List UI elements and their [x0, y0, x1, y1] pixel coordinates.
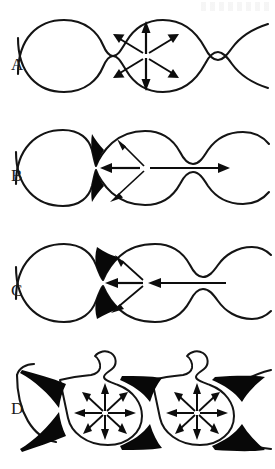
arrow-down-head-b1-d [101, 429, 109, 440]
membrane-lower-contour-c [16, 267, 271, 322]
neck-wedge-upper-c [95, 247, 119, 280]
neck-wedge-left-upper-d [20, 370, 66, 408]
neck-wedge-right-lower-d [212, 424, 265, 451]
panel-d-diagram [0, 342, 275, 469]
arrow-right-head-b1-d [125, 409, 136, 417]
arrow-left-head-b1-d [74, 409, 85, 417]
arrow-up-right-shaft-b1-d [107, 397, 122, 411]
arrow-up-left-shaft-c [122, 261, 143, 280]
membrane-upper-contour-c [16, 244, 271, 299]
panel-a: A [0, 0, 275, 112]
arrow-down-right-shaft-a [149, 59, 172, 73]
arrow-up-right-head-b2-d [211, 392, 220, 402]
force-arrows-c [105, 255, 226, 313]
arrow-down-right-shaft-b2-d [199, 415, 213, 428]
force-arrows-a [113, 21, 179, 91]
arrow-up-left-shaft-b2-d [180, 397, 195, 411]
panel-label-d: D [11, 400, 24, 417]
membrane-lower-contour-a [18, 38, 268, 92]
membrane-bead2-contour-d [152, 351, 234, 445]
arrow-down-left-head-b [110, 193, 123, 202]
arrow-down-left-shaft-c [118, 286, 143, 307]
arrow-up-right-head-b1-d [119, 392, 128, 402]
neck-wedge-right-upper-d [212, 376, 265, 402]
arrow-up-right-shaft-a [149, 39, 172, 53]
figure-root: A [0, 0, 275, 469]
arrow-left-head-b2-d [166, 409, 177, 417]
arrow-down-right-head-b1-d [118, 423, 127, 434]
membrane-upper-contour-b [16, 130, 269, 184]
panel-b: B [0, 112, 275, 224]
arrow-up-left-head-b [117, 139, 126, 151]
panel-c: C [0, 227, 275, 339]
arrow-down-left-head-b2-d [175, 423, 184, 434]
membrane-bead1-contour-d [60, 351, 142, 445]
arrow-up-head-b2-d [193, 383, 201, 394]
membrane-upper-contour-a [18, 20, 268, 74]
arrow-up-left-head-b1-d [82, 392, 91, 402]
arrow-left-long-head-c [148, 278, 161, 288]
neck-wedge-lower-c [95, 286, 119, 319]
force-arrows-b [100, 139, 230, 202]
panel-label-c: C [11, 282, 23, 299]
arrow-up-left-head-b2-d [174, 392, 183, 402]
panel-label-a: A [11, 56, 24, 73]
arrow-down-right-shaft-b1-d [107, 415, 121, 428]
arrow-down-head-b2-d [193, 429, 201, 440]
neck-wedge-lower-b [91, 170, 104, 202]
panel-label-b: B [11, 167, 23, 184]
neck-wedge-mid-lower-d [120, 424, 162, 450]
arrow-up-left-shaft-b1-d [88, 397, 103, 411]
arrow-left-head-b [100, 163, 112, 173]
arrow-left-short-head-c [105, 278, 118, 288]
force-arrows-bead2-d [166, 383, 228, 440]
arrow-up-left-shaft-b [123, 145, 144, 166]
arrow-right-head-b [218, 163, 230, 173]
arrow-right-head-b2-d [217, 409, 228, 417]
membrane-lower-contour-b [16, 152, 269, 206]
arrow-up-head-b1-d [101, 383, 109, 394]
arrow-down-left-shaft-b [117, 171, 144, 196]
arrow-down-left-head-b1-d [83, 423, 92, 434]
arrow-down-left-shaft-b1-d [89, 415, 103, 428]
arrow-down-left-shaft-b2-d [181, 415, 195, 428]
arrow-up-right-shaft-b2-d [199, 397, 214, 411]
panel-c-diagram [0, 227, 275, 339]
panel-b-diagram [0, 112, 275, 224]
force-arrows-bead1-d [74, 383, 136, 440]
panel-a-diagram [0, 0, 275, 112]
arrow-down-right-head-b2-d [210, 423, 219, 434]
panel-d: D [0, 342, 275, 469]
